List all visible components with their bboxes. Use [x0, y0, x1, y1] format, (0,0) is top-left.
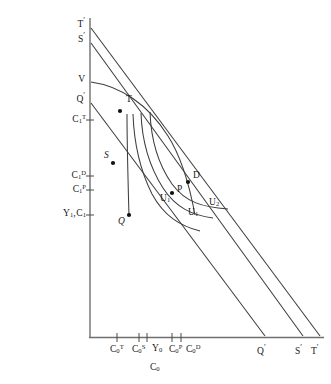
x-axis-label-T-prime: T′: [311, 344, 319, 356]
point-marker-S: [111, 161, 115, 165]
axes-group: [89, 18, 324, 338]
y-axis-label-Y1-C1: Y1, C1: [63, 209, 86, 219]
x-axis-label-S-prime: S′: [295, 344, 302, 356]
y-axis-label-Q-prime: Q′: [76, 92, 85, 104]
y-axis-label-T-prime: T′: [77, 17, 85, 29]
x-axis-label-C0D: C0D: [186, 344, 200, 355]
budget-lines-group: [91, 28, 320, 336]
point-marker-T: [118, 109, 122, 113]
x-axis-label-Q-prime: Q′: [257, 344, 266, 356]
curve-label-U1: U1: [160, 194, 170, 204]
chart-canvas: [0, 0, 331, 384]
curve-label-U2: U2: [209, 198, 219, 208]
y-axis-label-S-prime: S′: [78, 32, 85, 44]
budget-line-S-prime: [91, 43, 303, 336]
point-label-P: P: [177, 185, 182, 195]
vertical-constraint-line: [127, 114, 129, 216]
point-marker-P: [170, 191, 174, 195]
y-axis-label-V: V: [78, 75, 85, 85]
y-axis-label-C1D: C1D: [72, 170, 86, 181]
production-frontier-curve: [91, 82, 195, 215]
point-label-Q: Q: [118, 217, 125, 227]
point-label-D: D: [193, 171, 200, 181]
y-axis-label-C1P: C1P: [73, 184, 86, 195]
point-marker-D: [186, 180, 190, 184]
figure-container: T′ S′ V Q′ C1T C1D C1P Y1, C1 C0T C0S Y0…: [0, 0, 331, 384]
production-frontier-group: [91, 82, 195, 215]
x-axis-label-C0S: C0S: [132, 344, 145, 355]
curve-label-U1-lower: U1: [188, 208, 198, 218]
y-axis-label-C1T: C1T: [72, 114, 86, 125]
x-axis-label-Y0: Y0: [152, 344, 162, 354]
budget-line-T-prime: [91, 28, 320, 336]
point-label-S: S: [104, 151, 109, 161]
x-axis-label-C0P: C0P: [169, 344, 182, 355]
x-axis-label-C0T: C0T: [110, 344, 124, 355]
point-marker-Q: [127, 213, 131, 217]
point-label-T: T: [126, 95, 132, 105]
x-axis-caption: C0: [150, 363, 160, 373]
